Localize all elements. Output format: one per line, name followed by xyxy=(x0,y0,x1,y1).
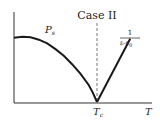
x-tick-label-tc: Tc xyxy=(93,106,104,118)
series-ps-line xyxy=(14,37,97,102)
chart: Case II Ps 1 ε-ε0 Tc T xyxy=(0,0,160,123)
fraction-numerator: 1 xyxy=(128,29,132,37)
x-axis-label: T xyxy=(145,106,153,117)
chart-title: Case II xyxy=(77,9,116,22)
series-inverse-epsilon-label: 1 ε-ε0 xyxy=(120,29,140,48)
series-ps-label-sub: s xyxy=(52,29,55,36)
series-ps-label: Ps xyxy=(44,24,55,36)
fraction-denominator-sub: 0 xyxy=(129,42,132,48)
series-inverse-epsilon-line xyxy=(97,39,130,102)
x-tick-label-tc-sub: c xyxy=(100,111,104,118)
